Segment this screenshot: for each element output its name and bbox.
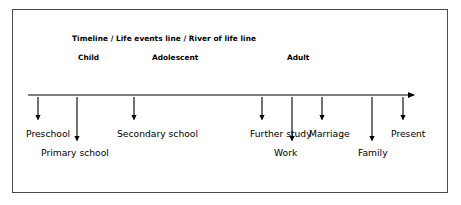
event-label: Marriage — [309, 128, 350, 139]
event-label: Preschool — [26, 128, 70, 139]
diagram-canvas: Timeline / Life events line / River of l… — [0, 0, 461, 205]
event-label: Primary school — [41, 147, 109, 158]
event-label: Present — [391, 128, 425, 139]
event-label: Work — [274, 147, 297, 158]
event-label: Further study — [250, 128, 312, 139]
timeline-graphics — [0, 0, 461, 205]
event-label: Family — [358, 147, 388, 158]
event-label: Secondary school — [117, 128, 198, 139]
